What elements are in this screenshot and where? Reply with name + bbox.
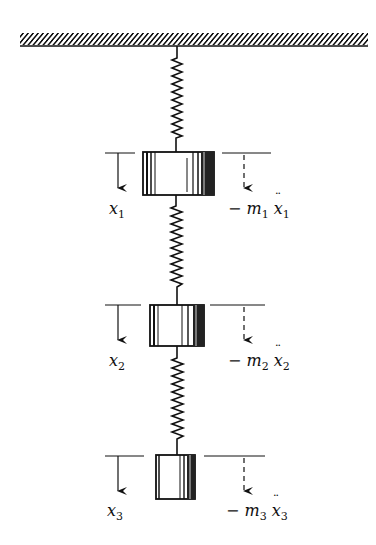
m2-sub: 2 [262,360,269,373]
x1-ddot-sub: 1 [283,208,290,221]
inertia-force-2-label: − m2 x2 [228,353,290,372]
x2-ddot: x [274,353,283,369]
x2-sub: 2 [118,360,125,373]
three-mass-spring-diagram [0,0,376,545]
m1-prefix: − m [228,199,262,218]
mass-1-block [143,152,214,195]
x1-label: x1 [109,201,125,220]
x2-label: x2 [109,353,125,372]
m3-sub: 3 [260,510,267,523]
x1-sub: 1 [118,208,125,221]
x1-ddot: x [274,201,283,217]
spring-2 [171,195,182,305]
spring-3 [172,346,183,455]
x3-ddot: x [272,503,281,519]
x3-ddot-sub: 3 [281,510,288,523]
inertia-force-3-label: − m3 x3 [226,503,288,522]
inertia-force-1-label: − m1 x1 [228,201,290,220]
x3-label: x3 [107,503,123,522]
x3-var: x [107,501,116,520]
mass-2-block [150,305,204,346]
x1-var: x [109,199,118,218]
m1-sub: 1 [262,208,269,221]
spring-1 [172,46,182,152]
fixed-ceiling [20,33,368,46]
mass-3-block [156,455,195,499]
m3-prefix: − m [226,501,260,520]
x2-ddot-sub: 2 [283,360,290,373]
x3-sub: 3 [116,510,123,523]
m2-prefix: − m [228,351,262,370]
x2-var: x [109,351,118,370]
